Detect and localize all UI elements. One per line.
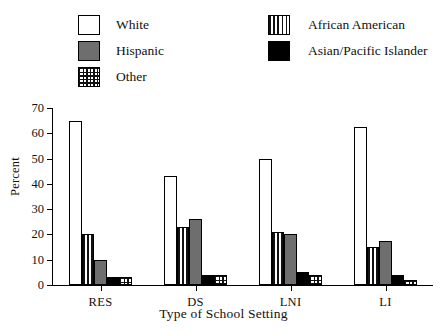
bar-res-asian-pacific-islander [107,277,120,285]
y-axis-tick [47,133,53,134]
y-axis-tick [47,159,53,160]
y-axis-tick-label: 30 [32,203,45,216]
chart-legend: White Hispanic Other African American As… [0,0,447,86]
y-axis-tick [47,184,53,185]
y-axis-tick-label: 20 [32,228,45,241]
y-axis-tick [47,234,53,235]
legend-column-right: African American Asian/Pacific Islander [268,12,428,64]
legend-swatch-white-icon [78,15,100,35]
y-axis-tick-label: 60 [32,127,45,140]
legend-label-hispanic: Hispanic [116,44,164,58]
x-axis-title: Type of School Setting [0,306,447,322]
bar-li-african-american [367,247,380,285]
legend-swatch-asian-pacific-islander-icon [268,41,290,61]
legend-column-left: White Hispanic Other [78,12,164,90]
legend-swatch-african-american-icon [268,15,290,35]
legend-item-hispanic: Hispanic [78,38,164,64]
legend-swatch-other-icon [78,67,100,87]
x-axis-tick [291,285,292,291]
legend-label-african-american: African American [308,18,405,32]
bar-res-hispanic [94,260,107,285]
legend-item-african-american: African American [268,12,428,38]
bar-li-hispanic [379,241,392,285]
y-axis-tick [47,209,53,210]
bar-li-white [354,127,367,285]
bar-chart: White Hispanic Other African American As… [0,0,447,333]
legend-item-asian-pacific-islander: Asian/Pacific Islander [268,38,428,64]
legend-label-white: White [116,18,149,32]
bar-lni-other [309,275,322,285]
legend-item-white: White [78,12,164,38]
y-axis-tick [47,260,53,261]
x-axis-tick [196,285,197,291]
y-axis-tick-label: 50 [32,152,45,165]
bar-lni-asian-pacific-islander [297,272,310,285]
legend-label-other: Other [116,70,147,84]
bar-li-other [404,280,417,285]
bar-ds-hispanic [189,219,202,285]
bar-li-asian-pacific-islander [392,275,405,285]
x-axis-tick [386,285,387,291]
bar-res-other [119,277,132,285]
x-axis-tick [101,285,102,291]
bar-res-white [69,121,82,285]
legend-item-other: Other [78,64,164,90]
y-axis-tick-label: 10 [32,253,45,266]
y-axis-title: Percent [8,157,23,196]
y-axis-tick [47,108,53,109]
bar-lni-white [259,159,272,285]
legend-swatch-hispanic-icon [78,41,100,61]
y-axis-tick [47,285,53,286]
plot-area: 010203040506070RESDSLNILI [52,108,433,286]
bar-ds-other [214,275,227,285]
legend-label-asian-pacific-islander: Asian/Pacific Islander [308,44,428,58]
bar-ds-african-american [177,227,190,285]
y-axis-tick-label: 40 [32,178,45,191]
bar-ds-white [164,176,177,285]
bar-lni-african-american [272,232,285,285]
y-axis-tick-label: 70 [32,102,45,115]
y-axis-tick-label: 0 [38,279,44,292]
bar-lni-hispanic [284,234,297,285]
bar-res-african-american [82,234,95,285]
bar-ds-asian-pacific-islander [202,275,215,285]
